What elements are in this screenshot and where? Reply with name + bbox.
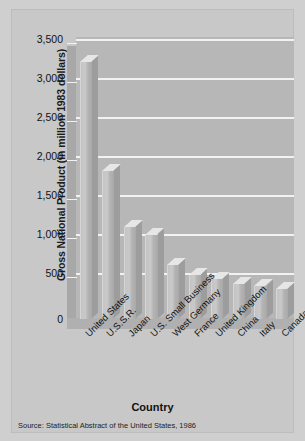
y-axis-tick-label: 2,000	[37, 150, 63, 162]
bar-front-face	[276, 289, 288, 319]
y-axis-tick-label: 1,000	[37, 228, 63, 240]
bar-side-face	[135, 221, 142, 319]
y-axis-tick-label: 0	[57, 313, 63, 325]
bar	[102, 171, 113, 319]
chart-card: Gross National Product (in million 1983 …	[11, 9, 294, 433]
bar-front-face	[80, 62, 92, 319]
bar-front-face	[102, 171, 114, 319]
bar	[145, 235, 156, 319]
y-axis-tick-label: 2,500	[37, 111, 63, 123]
bar-side-face	[222, 273, 229, 319]
bar-series	[76, 37, 294, 319]
bar-front-face	[145, 235, 157, 319]
source-note: Source: Statistical Abstract of the Unit…	[18, 421, 196, 430]
y-axis-tick-label: 3,500	[37, 33, 63, 45]
bar	[80, 62, 91, 319]
y-axis-tick-label: 3,000	[37, 72, 63, 84]
chart-screenshot: Gross National Product (in million 1983 …	[0, 0, 305, 441]
x-axis-title: Country	[11, 401, 294, 413]
y-axis-tick-labels: 05001,0001,5002,0002,5003,0003,500	[11, 37, 63, 329]
y-axis-tick-label: 500	[45, 267, 63, 279]
bar-side-face	[266, 280, 273, 319]
bar	[276, 289, 287, 319]
y-axis-tick-label: 1,500	[37, 189, 63, 201]
bar-side-face	[91, 55, 98, 319]
bar-side-face	[157, 228, 164, 319]
